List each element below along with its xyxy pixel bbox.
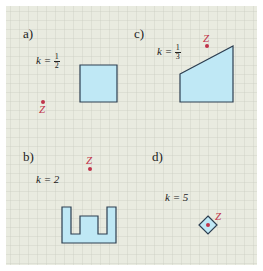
scale-factor-c: k = 13 bbox=[157, 44, 181, 61]
center-label-b: Z bbox=[86, 155, 92, 166]
fraction: 13 bbox=[175, 44, 181, 61]
k-prefix: k = bbox=[36, 54, 54, 66]
diagram-canvas: a) k = 12 Z c) k = 13 Z b) k = 2 Z d) k … bbox=[0, 0, 263, 271]
k-prefix: k = bbox=[157, 45, 175, 57]
scale-factor-a: k = 12 bbox=[36, 53, 60, 70]
center-label-a: Z bbox=[39, 104, 45, 115]
scale-factor-d: k = 5 bbox=[165, 192, 188, 203]
center-point-z-b bbox=[88, 167, 92, 171]
center-point-z-c bbox=[205, 44, 209, 48]
scale-factor-b: k = 2 bbox=[36, 174, 59, 185]
panel-label-a: a) bbox=[23, 27, 33, 40]
panel-label-c: c) bbox=[134, 27, 144, 40]
square-shape bbox=[80, 65, 117, 102]
panel-label-d: d) bbox=[152, 150, 163, 163]
fraction: 12 bbox=[54, 53, 60, 70]
center-label-c: Z bbox=[203, 33, 209, 44]
grid-paper bbox=[0, 0, 263, 271]
center-point-z-d bbox=[206, 223, 210, 227]
grid-lines bbox=[6, 6, 257, 265]
panel-label-b: b) bbox=[23, 150, 34, 163]
center-label-d: Z bbox=[215, 211, 221, 222]
